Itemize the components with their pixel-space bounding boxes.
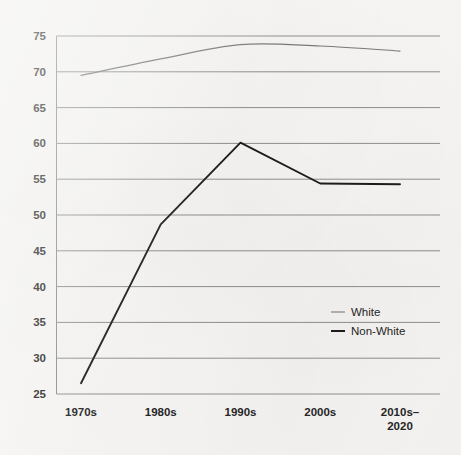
gridlines-group: [57, 36, 441, 394]
y-tick-label: 50: [33, 209, 46, 221]
y-tick-label: 40: [33, 281, 46, 293]
y-axis-tick-labels: 2530354045505560657075: [33, 30, 46, 400]
chart-legend: WhiteNon-White: [331, 306, 405, 337]
y-tick-label: 70: [33, 66, 46, 78]
line-chart: 2530354045505560657075 1970s1980s1990s20…: [0, 0, 461, 455]
y-tick-label: 75: [33, 30, 46, 42]
y-tick-label: 35: [33, 316, 46, 328]
series-line-white: [81, 44, 400, 76]
y-tick-label: 65: [33, 102, 46, 114]
x-tick-label: 1980s: [145, 406, 177, 418]
legend-label-white: White: [351, 306, 380, 318]
chart-canvas: 2530354045505560657075 1970s1980s1990s20…: [0, 0, 461, 455]
y-tick-label: 55: [33, 173, 46, 185]
x-tick-label: 1990s: [225, 406, 257, 418]
x-tick-label: 1970s: [65, 406, 97, 418]
y-tick-label: 45: [33, 245, 46, 257]
x-tick-label: 2000s: [304, 406, 336, 418]
y-tick-label: 60: [33, 137, 46, 149]
x-axis-tick-labels: 1970s1980s1990s2000s2010s–2020: [65, 406, 420, 432]
x-tick-label: 2010s–2020: [381, 406, 420, 432]
legend-label-non-white: Non-White: [351, 325, 405, 337]
y-tick-label: 25: [33, 388, 46, 400]
y-tick-label: 30: [33, 352, 46, 364]
